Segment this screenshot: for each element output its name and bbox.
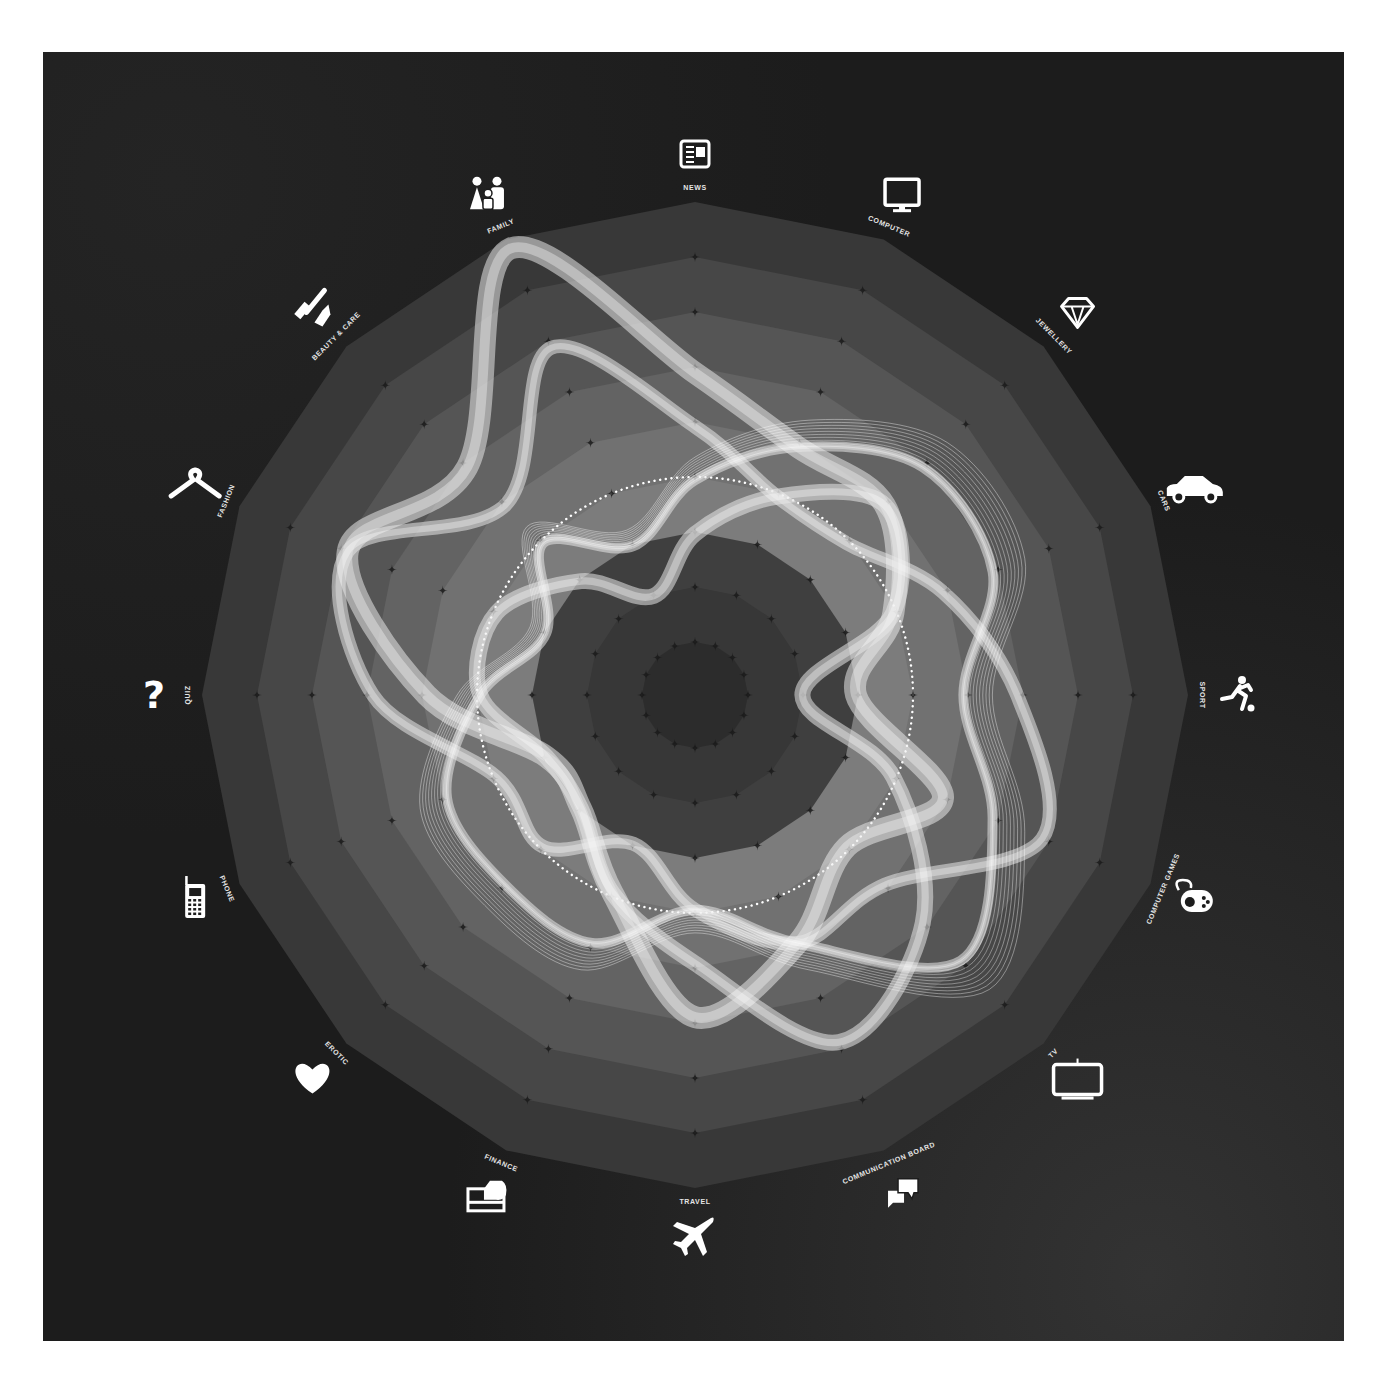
- category-label-erotic: EROTIC: [324, 1040, 350, 1066]
- category-label-travel: TRAVEL: [679, 1198, 710, 1205]
- chat-bubbles-icon: [888, 1179, 918, 1208]
- mobile-phone-icon: [185, 876, 205, 918]
- airplane-icon: [673, 1218, 714, 1257]
- family-icon: [470, 177, 504, 210]
- category-label-tv: TV: [1047, 1047, 1059, 1059]
- question-mark-icon: ?: [143, 673, 165, 717]
- clothes-hanger-icon: [171, 470, 219, 496]
- radar-chart: NEWSCOMPUTERJEWELLERYCARSSPORTCOMPUTER G…: [0, 0, 1379, 1386]
- category-label-quiz: QUIZ: [184, 685, 192, 704]
- category-label-family: FAMILY: [486, 217, 515, 234]
- category-label-fashion: FASHION: [216, 483, 236, 518]
- category-label-phone: PHONE: [219, 875, 236, 903]
- newspaper-icon: [681, 141, 709, 167]
- svg-text:?: ?: [143, 673, 165, 717]
- soccer-player-icon: [1222, 676, 1255, 712]
- category-label-sport: SPORT: [1199, 681, 1206, 708]
- credit-card-hand-icon: [468, 1181, 507, 1211]
- diamond-icon: [1062, 298, 1094, 327]
- computer-monitor-icon: [885, 179, 919, 212]
- category-label-finance: FINANCE: [484, 1153, 519, 1173]
- category-label-news: NEWS: [683, 184, 706, 191]
- category-label-computer: COMPUTER: [867, 214, 911, 238]
- heart-icon: [295, 1064, 329, 1094]
- tv-icon: [1054, 1059, 1102, 1100]
- gamepad-icon: [1177, 880, 1213, 912]
- radar-rings: [202, 202, 1188, 1188]
- car-icon: [1167, 476, 1223, 502]
- razor-lipstick-icon: [294, 290, 330, 326]
